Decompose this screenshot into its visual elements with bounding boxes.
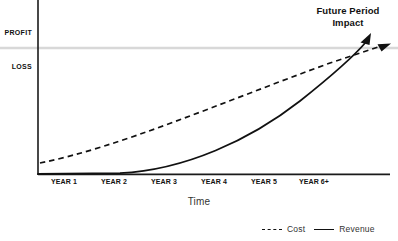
series-line-cost: [40, 46, 381, 163]
series-arrow-revenue: [361, 33, 372, 45]
series-line-revenue: [38, 42, 366, 174]
x-tick-year-1: YEAR 1: [38, 178, 90, 185]
chart-container: PROFIT LOSS YEAR 1 YEAR 2 YEAR 3 YEAR 4 …: [0, 0, 398, 241]
annotation-line-2: Impact: [332, 17, 363, 28]
axis-label-profit: PROFIT: [0, 29, 32, 36]
legend-swatch-dashed-icon: [262, 229, 282, 230]
legend-swatch-solid-icon: [314, 229, 334, 230]
x-tick-year-6-plus: YEAR 6+: [288, 178, 340, 185]
x-tick-year-4: YEAR 4: [188, 178, 240, 185]
legend-entry-cost[interactable]: Cost: [262, 225, 305, 234]
chart-legend: Cost Revenue: [262, 222, 398, 236]
x-tick-year-3: YEAR 3: [138, 178, 190, 185]
x-tick-year-5: YEAR 5: [238, 178, 290, 185]
legend-label-revenue: Revenue: [339, 225, 374, 234]
legend-entry-revenue[interactable]: Revenue: [314, 225, 374, 234]
axis-label-loss: LOSS: [0, 63, 32, 70]
legend-label-cost: Cost: [287, 225, 305, 234]
annotation-future-period-impact: Future Period Impact: [300, 5, 396, 29]
annotation-line-1: Future Period: [316, 5, 379, 16]
x-axis-title: Time: [0, 196, 398, 207]
x-tick-year-2: YEAR 2: [88, 178, 140, 185]
